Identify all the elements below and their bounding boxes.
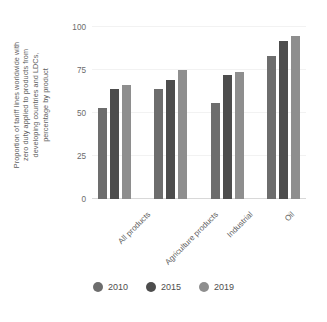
bar-2015-agriculture-products[interactable]: [166, 80, 175, 199]
bar-2015-industrial[interactable]: [223, 75, 232, 199]
bar-2010-industrial[interactable]: [211, 103, 220, 199]
legend-item-2010[interactable]: 2010: [93, 282, 128, 292]
bar-2019-oil[interactable]: [291, 36, 300, 199]
x-axis-tick-label: All products: [98, 203, 140, 221]
bar-group: [92, 27, 136, 199]
legend-swatch-icon: [93, 282, 103, 292]
bar-2015-all-products[interactable]: [110, 89, 119, 199]
bar-2010-all-products[interactable]: [98, 108, 107, 199]
legend-label: 2010: [108, 282, 128, 292]
bar-group: [149, 27, 193, 199]
y-axis-tick-label: 0: [81, 195, 86, 204]
y-axis-tick-label: 25: [77, 152, 86, 161]
legend-label: 2015: [161, 282, 181, 292]
bar-group: [205, 27, 249, 199]
bar-2019-agriculture-products[interactable]: [178, 70, 187, 199]
y-axis-title-line-4: percentage by product: [41, 42, 51, 168]
x-axis-ticks: All productsAgriculture productsIndustri…: [92, 203, 306, 263]
x-axis-tick-label: Oil: [274, 203, 284, 221]
y-axis-tick-label: 50: [77, 109, 86, 118]
bar-2015-oil[interactable]: [279, 41, 288, 199]
x-axis-tick-label: Agriculture products: [137, 203, 208, 221]
y-axis-tick-label: 100: [72, 23, 86, 32]
bar-groups: [92, 27, 306, 199]
x-axis-tick-text: Oil: [283, 210, 296, 223]
plot-area: 0255075100: [92, 27, 306, 199]
bar-group: [262, 27, 306, 199]
x-axis-tick-text: Industrial: [225, 210, 254, 239]
y-axis-title: Proportion of tariff lines worldwide wit…: [0, 0, 62, 210]
bar-2010-oil[interactable]: [267, 56, 276, 199]
legend-label: 2019: [214, 282, 234, 292]
bar-2019-industrial[interactable]: [235, 72, 244, 199]
legend-item-2019[interactable]: 2019: [199, 282, 234, 292]
bar-chart: Proportion of tariff lines worldwide wit…: [0, 0, 327, 322]
legend-swatch-icon: [146, 282, 156, 292]
y-axis-tick-label: 75: [77, 66, 86, 75]
y-axis-title-line-1: Proportion of tariff lines worldwide wit…: [12, 42, 22, 168]
bar-2019-all-products[interactable]: [122, 85, 131, 199]
y-axis-title-line-3: developing countries and LDCs,: [31, 42, 41, 168]
x-axis-tick-label: Industrial: [210, 203, 242, 221]
legend-swatch-icon: [199, 282, 209, 292]
y-axis-title-line-2: zero duty applied to products from: [21, 42, 31, 168]
bar-2010-agriculture-products[interactable]: [154, 89, 163, 199]
legend: 201020152019: [0, 282, 327, 292]
legend-item-2015[interactable]: 2015: [146, 282, 181, 292]
